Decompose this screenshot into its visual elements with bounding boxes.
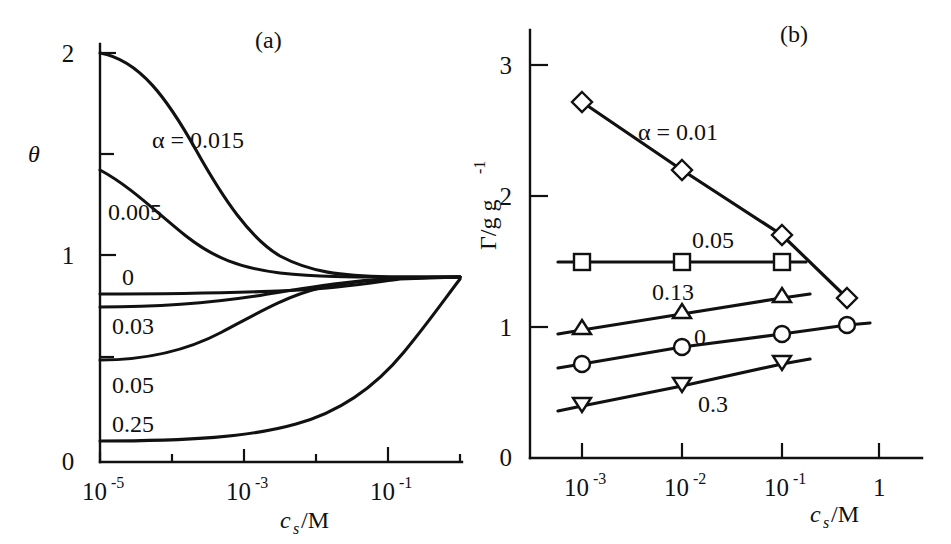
panel-a-curve-alpha-0015 (100, 53, 460, 277)
panel-b-x-axis-title: c s /M (810, 501, 859, 531)
panel-b-tag: (b) (780, 21, 808, 47)
panel-a-plot: (a) θ 2 1 0 10 -5 10 -3 10 -1 c s /M (0, 0, 470, 544)
panel-a-xlabel-1e-5: 10 -5 (82, 474, 124, 505)
panel-a-x-axis-title: c s /M (280, 507, 329, 537)
panel-a-label-0005: 0.005 (108, 199, 162, 225)
panel-a-ylabel-0: 0 (62, 448, 75, 475)
panel-a-x-axis-title-sub: s (293, 520, 299, 537)
panel-a-tag: (a) (255, 27, 282, 53)
panel-b-xlabel-1: 1 (873, 474, 886, 501)
panel-b-xlabel-1e-2: 10 -2 (664, 470, 706, 501)
marker-circle (674, 339, 690, 355)
panel-a-label-alpha-0015: α = 0.015 (152, 127, 244, 153)
panel-a-xlabel-1e-5-mantissa: 10 (82, 478, 107, 505)
panel-b-xlabel-1e-3-exp: -3 (593, 470, 606, 487)
marker-circle (839, 317, 855, 333)
panel-b-label-triangle-up: 0.13 (652, 279, 694, 305)
panel-a-xlabel-1e-3: 10 -3 (226, 474, 268, 505)
panel-b-ylabel-0: 0 (500, 444, 513, 471)
panel-b-label-triangle-down: 0.3 (698, 391, 728, 417)
panel-a-x-axis-title-tail: /M (301, 507, 329, 533)
panel-b-label-diamond: α = 0.01 (638, 119, 718, 145)
panel-b-line-circle (558, 323, 870, 368)
panel-a-x-axis-title-c: c (280, 507, 291, 533)
panel-b-xlabel-1e-2-exp: -2 (693, 470, 706, 487)
panel-a-xlabel-1e-1: 10 -1 (370, 474, 412, 505)
panel-b-y-axis-title-main: Γ/g g (475, 199, 501, 250)
marker-diamond (672, 160, 692, 180)
panel-b-xlabel-1e-1-exp: -1 (793, 470, 806, 487)
panel-a-label-003: 0.03 (112, 313, 154, 339)
panel-b-xlabel-1e-1: 10 -1 (764, 470, 806, 501)
marker-square (774, 254, 790, 270)
panel-b-ylabel-2: 2 (500, 183, 513, 210)
panel-b-label-circle: 0 (694, 324, 706, 350)
figure-root: (a) θ 2 1 0 10 -5 10 -3 10 -1 c s /M (0, 0, 951, 544)
panel-a-xlabel-1e-5-exp: -5 (111, 474, 124, 491)
panel-a-xlabel-1e-1-exp: -1 (399, 474, 412, 491)
panel-a-label-025: 0.25 (112, 411, 154, 437)
panel-b-xlabel-1e-2-mantissa: 10 (664, 474, 689, 501)
panel-a-label-005: 0.05 (112, 372, 154, 398)
marker-square (674, 254, 690, 270)
panel-b-x-axis-title-sub: s (823, 514, 829, 531)
panel-a-xlabel-1e-1-mantissa: 10 (370, 478, 395, 505)
marker-circle (774, 326, 790, 342)
marker-diamond (572, 92, 592, 112)
panel-b-label-square: 0.05 (692, 227, 734, 253)
panel-b: (b) Γ/g g -1 3 2 1 0 10 -3 10 -2 10 -1 1 (470, 0, 951, 544)
marker-triangle-up (573, 320, 591, 334)
panel-a-xlabel-1e-3-mantissa: 10 (226, 478, 251, 505)
panel-b-xlabel-1e-1-mantissa: 10 (764, 474, 789, 501)
panel-b-markers-triangle-down (573, 356, 791, 412)
panel-a-y-axis-label: θ (28, 141, 40, 167)
panel-a-ylabel-2: 2 (62, 40, 75, 67)
panel-a-label-0: 0 (122, 264, 134, 290)
panel-b-x-axis-title-tail: /M (831, 501, 859, 527)
marker-triangle-up (673, 304, 691, 318)
panel-b-y-axis-title-sup: -1 (471, 161, 488, 174)
panel-a-xlabel-1e-3-exp: -3 (255, 474, 268, 491)
marker-square (574, 254, 590, 270)
panel-b-xlabel-1e-3: 10 -3 (564, 470, 606, 501)
marker-circle (574, 356, 590, 372)
marker-triangle-up (773, 288, 791, 302)
panel-b-ylabel-1: 1 (500, 314, 513, 341)
panel-a: (a) θ 2 1 0 10 -5 10 -3 10 -1 c s /M (0, 0, 470, 544)
panel-b-xlabel-1e-3-mantissa: 10 (564, 474, 589, 501)
panel-a-ylabel-1: 1 (62, 242, 75, 269)
panel-b-plot: (b) Γ/g g -1 3 2 1 0 10 -3 10 -2 10 -1 1 (470, 0, 951, 544)
panel-b-y-axis-title: Γ/g g -1 (471, 161, 501, 250)
panel-b-x-axis-title-c: c (810, 501, 821, 527)
panel-b-ylabel-3: 3 (500, 52, 513, 79)
